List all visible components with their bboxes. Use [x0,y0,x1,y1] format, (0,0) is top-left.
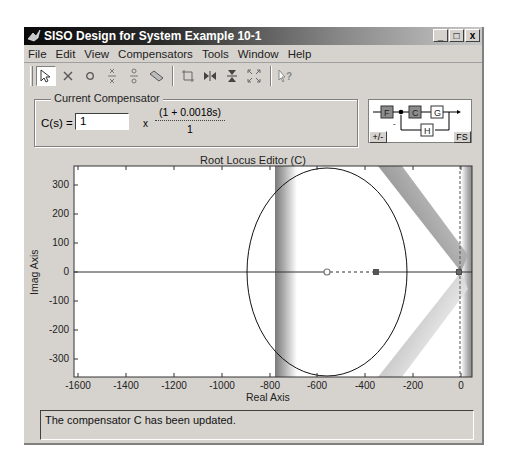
svg-text:-200: -200 [49,324,69,335]
svg-text:0: 0 [458,380,464,391]
svg-text:-300: -300 [49,353,69,364]
compensator-zero-marker[interactable] [324,269,330,275]
siso-design-window: SISO Design for System Example 10-1 _ □ … [24,27,484,445]
svg-text:-800: -800 [260,380,280,391]
svg-text:-100: -100 [49,295,69,306]
svg-text:-1600: -1600 [65,380,91,391]
y-axis-label: Imag Axis [28,249,40,295]
svg-text:200: 200 [52,208,69,219]
svg-text:300: 300 [52,179,69,190]
svg-text:-1400: -1400 [113,380,139,391]
svg-text:-400: -400 [355,380,375,391]
svg-text:-600: -600 [307,380,327,391]
svg-text:-1000: -1000 [209,380,235,391]
svg-text:0: 0 [63,266,69,277]
svg-text:-200: -200 [403,380,423,391]
x-tick-labels: -1600 -1400 -1200 -1000 -800 -600 -400 -… [65,380,464,391]
x-axis-label: Real Axis [246,391,290,403]
svg-text:100: 100 [52,237,69,248]
y-tick-labels: 300 200 100 0 -100 -200 -300 [49,179,69,364]
status-bar: The compensator C has been updated. [40,410,474,440]
closed-loop-pole-marker[interactable] [373,269,379,275]
root-locus-plot[interactable]: -1600 -1400 -1200 -1000 -800 -600 -400 -… [24,27,484,445]
svg-text:-1200: -1200 [161,380,187,391]
